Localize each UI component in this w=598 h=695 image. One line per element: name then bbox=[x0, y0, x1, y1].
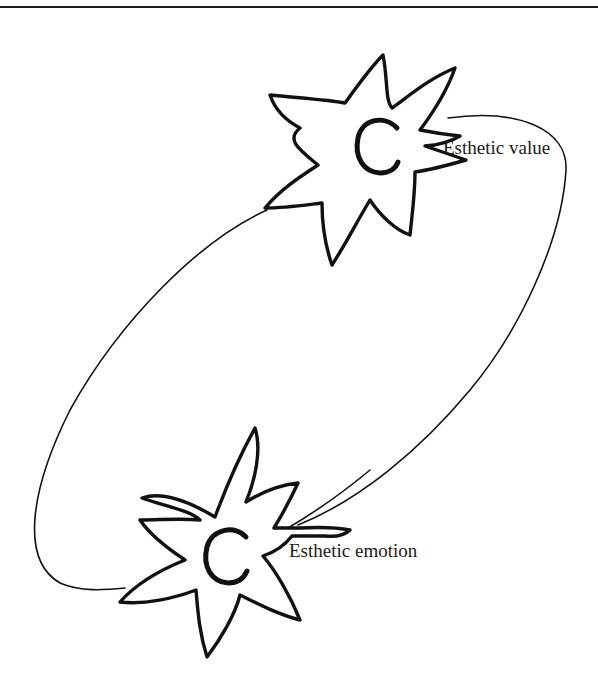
label-esthetic-emotion: Esthetic emotion bbox=[289, 540, 418, 561]
star-icon-top bbox=[265, 55, 466, 265]
label-esthetic-value: Esthetic value bbox=[443, 137, 550, 158]
connector-line-bottom bbox=[288, 470, 370, 528]
diagram-canvas: Esthetic value Esthetic emotion bbox=[0, 0, 598, 695]
node-esthetic-value: Esthetic value bbox=[265, 55, 550, 265]
node-esthetic-emotion: Esthetic emotion bbox=[120, 428, 418, 657]
